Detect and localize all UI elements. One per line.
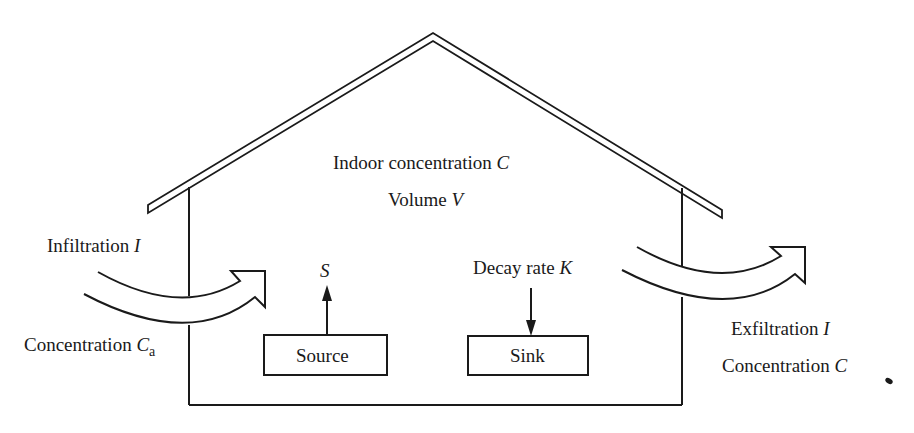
sink-box-label: Sink [510,346,545,365]
infiltration-label: Infiltration I [47,236,140,255]
exfiltration-label: Exfiltration I [731,319,830,338]
indoor-concentration-var: C [497,152,510,173]
exhaust-concentration-text: Concentration [722,355,830,376]
outdoor-concentration-text: Concentration [24,334,132,355]
box-model-diagram: Indoor concentration C Volume V Infiltra… [0,0,914,433]
infiltration-text: Infiltration [47,235,129,256]
volume-label: Volume V [388,190,463,209]
decay-rate-text: Decay rate [473,257,555,278]
volume-text: Volume [388,189,447,210]
exfiltration-var: I [823,318,829,339]
outdoor-concentration-var: C [136,334,149,355]
source-arrow-head [322,285,332,301]
exfiltration-arrow [622,247,805,299]
exhaust-concentration-label: Concentration C [722,356,847,375]
infiltration-var: I [134,235,140,256]
outdoor-concentration-subscript: a [149,344,155,359]
decay-rate-var: K [560,257,573,278]
infiltration-arrow [84,271,265,323]
sink-arrow-head [526,320,536,336]
source-rate-label: S [320,261,330,280]
decay-rate-label: Decay rate K [473,258,572,277]
exfiltration-text: Exfiltration [731,318,819,339]
indoor-concentration-label: Indoor concentration C [333,153,509,172]
exhaust-concentration-var: C [834,355,847,376]
smudge-mark [884,377,893,385]
indoor-concentration-text: Indoor concentration [333,152,492,173]
volume-var: V [452,189,464,210]
outdoor-concentration-label: Concentration Ca [24,335,155,354]
source-box-label: Source [296,346,349,365]
